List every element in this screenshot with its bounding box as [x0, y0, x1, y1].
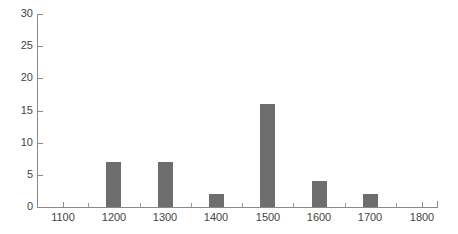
- bar: [158, 162, 173, 207]
- x-axis-tick-label: 1700: [358, 211, 382, 223]
- y-axis-tick-label: 25: [21, 40, 33, 51]
- y-axis-tick: [38, 207, 43, 208]
- y-axis-tick-label: 0: [27, 201, 33, 212]
- bar: [106, 162, 121, 207]
- bar: [312, 181, 327, 207]
- x-axis-line: [37, 207, 438, 208]
- x-axis-tick-label: 1400: [204, 211, 228, 223]
- plot-area: [37, 14, 437, 207]
- bar: [363, 194, 378, 207]
- x-axis-tick-label: 1800: [410, 211, 434, 223]
- bar: [260, 104, 275, 207]
- bar-chart: 051015202530 110012001300140015001600170…: [0, 0, 458, 234]
- y-axis-tick-label: 15: [21, 105, 33, 116]
- y-axis-tick-label: 5: [27, 169, 33, 180]
- x-axis-tick-label: 1600: [307, 211, 331, 223]
- x-axis-tick-label: 1200: [102, 211, 126, 223]
- y-axis-tick-label: 20: [21, 72, 33, 83]
- x-axis-right-cap: [437, 201, 438, 208]
- x-axis-tick-label: 1500: [256, 211, 280, 223]
- x-axis-tick-label: 1300: [153, 211, 177, 223]
- x-axis-tick-label: 1100: [51, 211, 75, 223]
- y-axis-tick-label: 30: [21, 8, 33, 19]
- bar: [209, 194, 224, 207]
- y-axis-tick-label: 10: [21, 137, 33, 148]
